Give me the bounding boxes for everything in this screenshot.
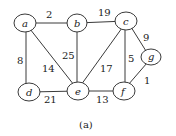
edge-c-e [81, 28, 122, 85]
node-a-label: a [22, 18, 28, 29]
node-b: b [67, 14, 87, 32]
weight-c-e: 17 [100, 63, 113, 74]
node-e-label: e [75, 86, 81, 97]
node-g: g [141, 49, 161, 65]
graph-diagram: 2 19 8 14 25 17 5 9 1 21 13 a b c g d [0, 0, 176, 136]
node-e: e [67, 82, 89, 100]
node-d-label: d [26, 87, 32, 98]
figure-caption: (a) [79, 119, 93, 130]
node-f: f [113, 82, 135, 100]
weight-a-d: 8 [17, 55, 23, 66]
node-d: d [18, 83, 40, 101]
weight-c-g: 9 [143, 32, 149, 43]
node-c: c [115, 12, 137, 30]
weight-b-e: 25 [62, 50, 75, 61]
node-b-label: b [74, 18, 80, 29]
nodes: a b c g d e f [14, 12, 161, 101]
weight-c-f: 5 [128, 53, 134, 64]
node-c-label: c [123, 16, 129, 27]
node-a: a [14, 14, 36, 32]
weight-b-c: 19 [98, 7, 111, 18]
weight-d-e: 21 [44, 94, 57, 105]
weight-a-b: 2 [46, 9, 52, 20]
weight-g-f: 1 [144, 75, 150, 86]
weight-a-e: 14 [42, 63, 55, 74]
node-g-label: g [148, 51, 154, 62]
weight-e-f: 13 [96, 94, 109, 105]
